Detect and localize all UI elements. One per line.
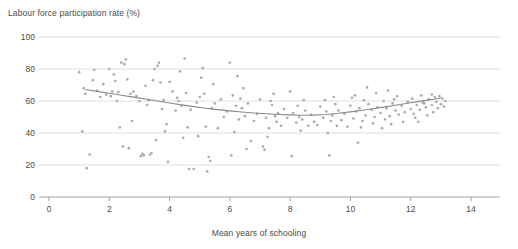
x-tick-label-4: 4 [158,204,182,214]
scatter-points [78,57,447,172]
x-axis-label: Mean years of schooling [0,228,518,238]
x-tick-label-14: 14 [459,204,483,214]
x-tick-label-0: 0 [37,204,61,214]
x-tick-label-2: 2 [97,204,121,214]
y-tick-label-40: 40 [9,128,35,138]
x-axis-tick-marks [49,197,471,201]
y-tick-label-0: 0 [9,192,35,202]
chart-container: Labour force participation rate (%) 0204… [0,0,518,249]
trend-line [85,89,441,115]
y-tick-label-60: 60 [9,96,35,106]
x-tick-label-8: 8 [278,204,302,214]
y-tick-label-20: 20 [9,160,35,170]
y-tick-label-100: 100 [9,32,35,42]
x-tick-label-12: 12 [399,204,423,214]
x-tick-label-6: 6 [218,204,242,214]
x-tick-label-10: 10 [338,204,362,214]
y-tick-label-80: 80 [9,64,35,74]
scatter-plot-canvas [0,0,518,249]
